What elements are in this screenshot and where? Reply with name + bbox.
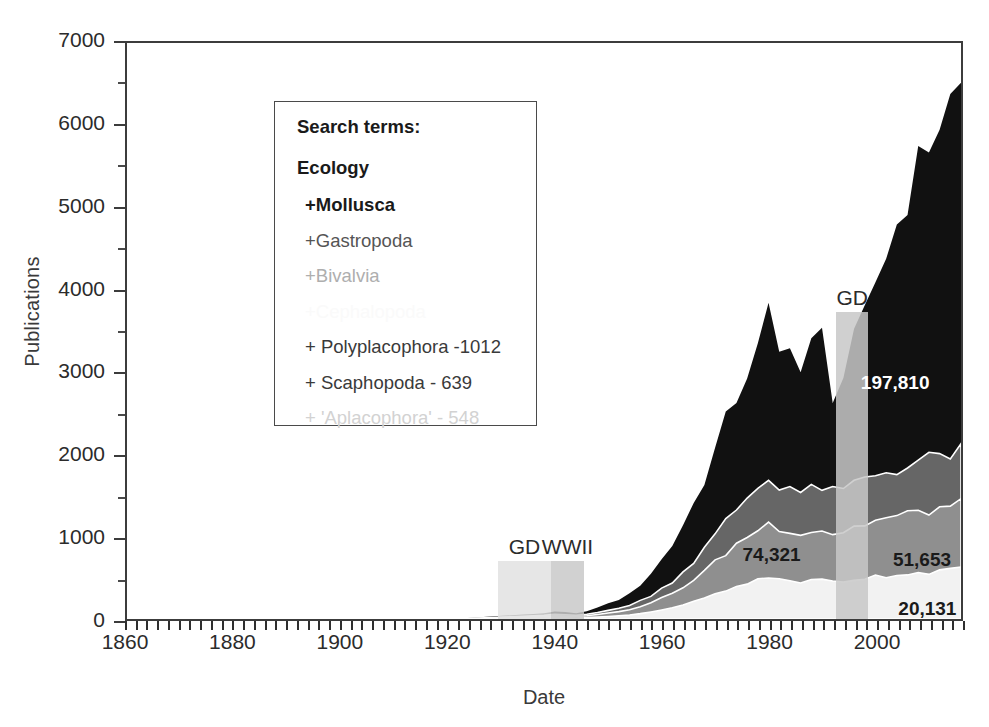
x-tick-minor <box>866 621 868 630</box>
x-tick-minor <box>318 621 320 630</box>
x-tick-minor <box>351 621 353 630</box>
x-tick-minor <box>469 621 471 630</box>
x-tick-minor <box>200 621 202 630</box>
y-tick-minor <box>118 580 125 582</box>
x-tick-label: 1980 <box>725 630 815 654</box>
great-depression-1-label: GD <box>509 535 541 559</box>
x-tick-minor <box>437 621 439 630</box>
great-depression-1-band <box>498 561 552 619</box>
x-tick-minor <box>544 621 546 630</box>
x-tick-minor <box>856 621 858 630</box>
x-tick-minor <box>813 621 815 630</box>
world-war-two-band <box>551 561 583 619</box>
x-tick-minor <box>673 621 675 630</box>
x-tick-minor <box>727 621 729 630</box>
x-tick-minor <box>254 621 256 630</box>
x-tick-minor <box>802 621 804 630</box>
x-tick-minor <box>845 621 847 630</box>
x-tick-label: 1860 <box>80 630 170 654</box>
callout-mollusca: 74,321 <box>743 544 801 566</box>
x-tick-minor <box>501 621 503 630</box>
x-tick-minor <box>275 621 277 630</box>
x-tick-label: 1900 <box>295 630 385 654</box>
x-tick-minor <box>447 621 449 630</box>
x-tick-minor <box>920 621 922 630</box>
x-tick-minor <box>490 621 492 630</box>
y-tick-minor <box>118 331 125 333</box>
x-tick-minor <box>361 621 363 630</box>
y-tick-major <box>114 621 125 623</box>
x-tick-minor <box>942 621 944 630</box>
great-depression-2-label: GD <box>836 286 868 310</box>
y-tick-major <box>114 290 125 292</box>
x-tick-label: 1920 <box>402 630 492 654</box>
y-tick-label: 3000 <box>5 359 105 383</box>
y-tick-minor <box>118 82 125 84</box>
x-tick-minor <box>748 621 750 630</box>
x-tick-minor <box>759 621 761 630</box>
x-tick-minor <box>533 621 535 630</box>
y-tick-minor <box>118 165 125 167</box>
x-tick-minor <box>823 621 825 630</box>
legend-item-cephalopoda: +Cephalopoda <box>297 303 536 322</box>
x-tick-minor <box>877 621 879 630</box>
x-tick-minor <box>791 621 793 630</box>
y-tick-label: 0 <box>5 608 105 632</box>
x-tick-minor <box>598 621 600 630</box>
y-tick-major <box>114 207 125 209</box>
x-tick-minor <box>641 621 643 630</box>
x-tick-minor <box>705 621 707 630</box>
x-tick-minor <box>125 621 127 630</box>
x-tick-minor <box>329 621 331 630</box>
legend-item-aplacophora: + 'Aplacophora' - 548 <box>297 409 536 428</box>
x-tick-minor <box>834 621 836 630</box>
y-tick-major <box>114 538 125 540</box>
x-tick-minor <box>931 621 933 630</box>
x-tick-minor <box>480 621 482 630</box>
x-tick-minor <box>662 621 664 630</box>
x-tick-minor <box>576 621 578 630</box>
x-tick-minor <box>737 621 739 630</box>
x-tick-minor <box>716 621 718 630</box>
y-tick-label: 1000 <box>5 525 105 549</box>
y-tick-label: 2000 <box>5 442 105 466</box>
legend-root-ecology: Ecology <box>297 159 536 178</box>
x-tick-minor <box>770 621 772 630</box>
legend-item-gastropoda: +Gastropoda <box>297 232 536 251</box>
x-tick-minor <box>684 621 686 630</box>
x-tick-minor <box>308 621 310 630</box>
x-tick-minor <box>232 621 234 630</box>
legend-box: Search terms: Ecology+Mollusca+Gastropod… <box>274 101 537 426</box>
x-tick-minor <box>651 621 653 630</box>
x-tick-label: 1880 <box>187 630 277 654</box>
y-tick-label: 7000 <box>5 28 105 52</box>
y-tick-major <box>114 455 125 457</box>
great-depression-2-band <box>836 312 868 619</box>
x-tick-label: 1960 <box>617 630 707 654</box>
x-tick-minor <box>888 621 890 630</box>
x-tick-minor <box>157 621 159 630</box>
legend-item-mollusca: +Mollusca <box>297 196 536 215</box>
x-tick-minor <box>404 621 406 630</box>
x-tick-minor <box>608 621 610 630</box>
x-axis: 18601880190019201940196019802000 <box>125 621 963 661</box>
x-tick-minor <box>512 621 514 630</box>
legend-items: Ecology+Mollusca+Gastropoda+Bivalvia+Cep… <box>297 159 536 428</box>
x-tick-minor <box>899 621 901 630</box>
x-tick-minor <box>243 621 245 630</box>
x-tick-minor <box>415 621 417 630</box>
publications-by-date-chart: Publications Date 0100020003000400050006… <box>0 0 989 727</box>
x-tick-minor <box>136 621 138 630</box>
x-tick-minor <box>286 621 288 630</box>
x-tick-minor <box>780 621 782 630</box>
x-tick-minor <box>222 621 224 630</box>
x-tick-minor <box>394 621 396 630</box>
x-tick-label: 1940 <box>510 630 600 654</box>
legend-item-bivalvia: +Bivalvia <box>297 267 536 286</box>
x-tick-minor <box>523 621 525 630</box>
x-tick-minor <box>909 621 911 630</box>
x-tick-minor <box>565 621 567 630</box>
x-tick-minor <box>265 621 267 630</box>
x-tick-minor <box>587 621 589 630</box>
x-tick-minor <box>555 621 557 630</box>
